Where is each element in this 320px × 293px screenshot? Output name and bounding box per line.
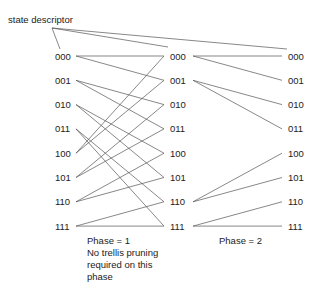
caption-line: Phase = 2 — [219, 235, 262, 247]
state-label-col1-011: 011 — [55, 123, 70, 134]
state-label-col3-001: 001 — [288, 75, 304, 86]
state-label-col3-011: 011 — [288, 123, 303, 134]
phase-2-caption: Phase = 2 — [219, 235, 262, 247]
trellis-diagram: 0000010100111001011101110000010100111001… — [0, 0, 320, 293]
state-label-col3-111: 111 — [288, 221, 302, 232]
edge-stage1-010-to-100 — [76, 105, 164, 154]
state-label-col2-010: 010 — [170, 99, 186, 110]
edge-stage2-110-to-100 — [193, 153, 282, 202]
state-label-col2-101: 101 — [170, 172, 186, 183]
state-label-col1-010: 010 — [55, 99, 71, 110]
caption-line: Phase = 1 — [87, 235, 158, 247]
annotation-line-col2 — [52, 28, 168, 47]
state-label-col2-001: 001 — [170, 75, 186, 86]
state-label-col3-100: 100 — [288, 148, 304, 159]
state-label-col2-011: 011 — [170, 123, 185, 134]
state-label-col1-000: 000 — [55, 51, 71, 62]
caption-line: required on this — [87, 259, 158, 271]
state-label-col2-100: 100 — [170, 148, 186, 159]
edge-stage1-111-to-110 — [76, 202, 164, 226]
caption-line: No trellis pruning — [87, 247, 158, 259]
edge-stage1-101-to-011 — [76, 129, 164, 178]
state-label-col2-110: 110 — [170, 196, 185, 207]
state-label-col1-101: 101 — [55, 172, 71, 183]
edge-stage1-110-to-101 — [76, 178, 164, 202]
state-label-col1-001: 001 — [55, 75, 71, 86]
state-label-col3-101: 101 — [288, 172, 304, 183]
annotation-line-col3 — [52, 28, 287, 49]
edge-stage2-000-to-001 — [193, 56, 282, 80]
annotation-line-col1 — [52, 28, 60, 49]
edge-stage1-100-to-001 — [76, 80, 164, 153]
state-label-col3-000: 000 — [288, 51, 304, 62]
edge-stage1-001-to-010 — [76, 80, 164, 104]
state-label-col1-100: 100 — [55, 148, 71, 159]
state-label-col3-110: 110 — [288, 196, 303, 207]
annotation-lines — [52, 28, 287, 49]
edge-stage1-100-to-000 — [76, 56, 164, 153]
state-label-col1-111: 111 — [55, 221, 69, 232]
edge-stage1-110-to-100 — [76, 153, 164, 202]
edge-stage2-001-to-011 — [193, 80, 282, 129]
phase-1-caption: Phase = 1 No trellis pruning required on… — [87, 235, 158, 283]
state-descriptor-label: state descriptor — [8, 14, 73, 25]
state-label-col1-110: 110 — [55, 196, 70, 207]
edge-stage2-111-to-110 — [193, 202, 282, 226]
edge-stage2-110-to-101 — [193, 178, 282, 202]
state-label-col3-010: 010 — [288, 99, 304, 110]
edge-stage2-001-to-010 — [193, 80, 282, 104]
caption-line: phase — [87, 271, 158, 283]
state-labels: 0000010100111001011101110000010100111001… — [55, 51, 304, 232]
state-label-col2-000: 000 — [170, 51, 186, 62]
edge-stage1-011-to-110 — [76, 129, 164, 202]
edge-stage1-000-to-001 — [76, 56, 164, 80]
state-label-col2-111: 111 — [170, 221, 184, 232]
